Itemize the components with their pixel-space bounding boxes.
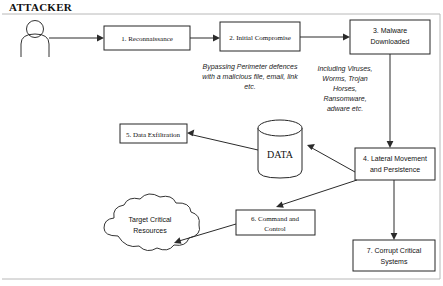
node-initial-compromise[interactable]: 2. Initial Compromise [220, 22, 300, 51]
node-data-exfiltration-label: 5. Data Exfiltration [126, 131, 181, 139]
annotation-initial-compromise-line1: Bypassing Perimeter defences [203, 63, 298, 71]
node-lateral-movement[interactable]: 4. Lateral Movement and Persistence [355, 148, 435, 180]
node-lateral-movement-label-line2: and Persistence [370, 166, 420, 173]
annotation-initial-compromise-line2: with a malicious file, email, link [202, 73, 298, 80]
node-malware-downloaded-label-line1: 3. Malware [373, 27, 407, 34]
annotation-malware: Including Viruses, Worms, Trojan Horses,… [317, 65, 372, 112]
node-reconnaissance[interactable]: 1. Reconnaissance [104, 26, 190, 50]
node-reconnaissance-label: 1. Reconnaissance [121, 35, 173, 43]
node-command-and-control-label-line1: 6. Command and [251, 215, 300, 223]
connector-attacker-to-reconnaissance [49, 35, 104, 42]
node-corrupt-critical-systems-label-line2: Systems [381, 258, 408, 266]
node-target-critical-resources-label-line2: Resources [133, 227, 167, 234]
connector-lateral-movement-to-command-control [276, 180, 357, 208]
connector-lateral-movement-to-corrupt-systems [391, 180, 398, 240]
annotation-malware-line1: Including Viruses, [317, 65, 372, 73]
diagram-canvas: ATTACKER 1. Reconnaissance 2. Initial Co… [0, 0, 443, 286]
node-command-and-control-label-line2: Control [264, 225, 285, 233]
annotation-malware-line5: adware etc. [327, 105, 363, 112]
connector-reconnaissance-to-initial-compromise [190, 35, 220, 42]
data-store-cylinder[interactable]: DATA [258, 120, 302, 178]
annotation-malware-line2: Worms, Trojan [322, 75, 367, 83]
node-initial-compromise-label: 2. Initial Compromise [229, 34, 291, 42]
node-data-exfiltration[interactable]: 5. Data Exfiltration [120, 124, 187, 143]
node-target-critical-resources[interactable]: Target Critical Resources [104, 194, 200, 251]
attacker-figure [21, 21, 49, 58]
annotation-initial-compromise-line3: etc. [244, 83, 255, 90]
node-malware-downloaded-label-line2: Downloaded [371, 38, 410, 45]
attack-flow-diagram: ATTACKER 1. Reconnaissance 2. Initial Co… [0, 0, 443, 286]
node-corrupt-critical-systems-label-line1: 7. Corrupt Critical [367, 247, 422, 255]
node-target-critical-resources-label-line1: Target Critical [129, 216, 172, 224]
node-command-and-control[interactable]: 6. Command and Control [236, 210, 315, 235]
connector-malware-to-lateral-movement [387, 54, 394, 148]
node-malware-downloaded[interactable]: 3. Malware Downloaded [350, 20, 430, 54]
annotation-initial-compromise: Bypassing Perimeter defences with a mali… [202, 63, 298, 90]
node-lateral-movement-label-line1: 4. Lateral Movement [363, 155, 427, 162]
attacker-label: ATTACKER [9, 1, 73, 13]
connector-initial-compromise-to-malware [300, 34, 350, 41]
data-store-label: DATA [267, 149, 294, 160]
annotation-malware-line4: Ransomware, [323, 95, 366, 102]
connector-lateral-movement-to-data [307, 144, 355, 172]
annotation-malware-line3: Horses, [333, 85, 357, 92]
node-corrupt-critical-systems[interactable]: 7. Corrupt Critical Systems [353, 240, 435, 271]
connector-data-to-exfiltration [187, 130, 258, 150]
